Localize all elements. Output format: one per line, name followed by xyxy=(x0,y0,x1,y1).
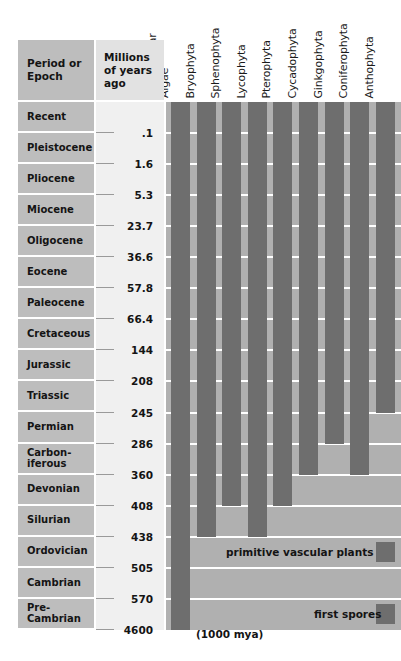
period-cell-1: Recent xyxy=(18,102,94,133)
period-cell-8: Cretaceous xyxy=(18,319,94,350)
boundary-tick-7: 66.4 xyxy=(96,312,164,326)
period-label: Pliocene xyxy=(18,173,75,185)
boundary-tick-rule xyxy=(96,225,114,226)
boundary-value: 144 xyxy=(131,344,164,356)
boundary-tick-rule xyxy=(96,567,114,568)
range-bars-panel: primitive vascular plantsfirst spores(10… xyxy=(166,102,401,630)
period-cell-11: Permian xyxy=(18,413,94,444)
boundary-tick-17: 4600 xyxy=(96,623,164,637)
boundary-value: 1.6 xyxy=(134,158,164,170)
boundary-tick-rule xyxy=(96,163,114,164)
boundary-value: 286 xyxy=(131,438,164,450)
period-cell-17: Pre- Cambrian xyxy=(18,599,94,630)
boundary-tick-rule xyxy=(96,412,114,413)
period-cell-3: Pliocene xyxy=(18,164,94,195)
period-label: Ordovician xyxy=(18,545,88,557)
boundary-value: 36.6 xyxy=(127,251,164,263)
period-label: Triassic xyxy=(18,390,69,402)
range-bar-7 xyxy=(325,102,344,444)
period-label: Eocene xyxy=(18,266,67,278)
mya-column: .11.65.323.736.657.866.41442082452863604… xyxy=(96,102,164,630)
period-label: Permian xyxy=(18,421,74,433)
range-bar-1 xyxy=(171,102,190,630)
column-header-mya: Millions of years ago xyxy=(96,40,164,100)
range-bar-5 xyxy=(273,102,292,506)
boundary-tick-3: 5.3 xyxy=(96,188,164,202)
taxon-header-7: Ginkgophyta xyxy=(312,2,324,98)
boundary-tick-11: 286 xyxy=(96,437,164,451)
boundary-tick-4: 23.7 xyxy=(96,219,164,233)
period-label: Cretaceous xyxy=(18,328,90,340)
annotation-primitive-vascular-plants-swatch xyxy=(376,542,395,562)
period-column: RecentPleistocenePlioceneMioceneOligocen… xyxy=(18,102,94,630)
boundary-value: 23.7 xyxy=(127,220,164,232)
taxon-header-8: Coniferophyta xyxy=(338,2,350,98)
boundary-tick-10: 245 xyxy=(96,406,164,420)
boundary-value: 245 xyxy=(131,407,164,419)
range-bar-9 xyxy=(376,102,395,413)
period-label: Pleistocene xyxy=(18,142,92,154)
period-cell-13: Devonian xyxy=(18,475,94,506)
period-cell-4: Miocene xyxy=(18,195,94,226)
boundary-value: 408 xyxy=(131,500,164,512)
boundary-tick-8: 144 xyxy=(96,343,164,357)
taxa-header-row: Multicellular AlgaeBryophytaSphenophytaL… xyxy=(166,0,401,100)
boundary-tick-rule xyxy=(96,380,114,381)
range-bar-8 xyxy=(350,102,369,475)
period-cell-10: Triassic xyxy=(18,381,94,412)
boundary-value: 4600 xyxy=(124,624,164,636)
boundary-value: 5.3 xyxy=(134,189,164,201)
boundary-tick-rule xyxy=(96,474,114,475)
boundary-tick-12: 360 xyxy=(96,468,164,482)
boundary-tick-5: 36.6 xyxy=(96,250,164,264)
boundary-tick-16: 570 xyxy=(96,592,164,606)
boundary-tick-rule xyxy=(96,536,114,537)
column-header-period: Period or Epoch xyxy=(18,40,94,100)
boundary-tick-9: 208 xyxy=(96,374,164,388)
grid-line-16 xyxy=(166,598,401,600)
period-cell-7: Paleocene xyxy=(18,288,94,319)
period-cell-16: Cambrian xyxy=(18,568,94,599)
period-label: Paleocene xyxy=(18,297,85,309)
boundary-value: 505 xyxy=(131,562,164,574)
range-bar-2 xyxy=(197,102,216,537)
period-label: Carbon- iferous xyxy=(18,447,71,470)
boundary-tick-6: 57.8 xyxy=(96,281,164,295)
range-bar-4 xyxy=(248,102,267,537)
period-cell-15: Ordovician xyxy=(18,537,94,568)
boundary-tick-13: 408 xyxy=(96,499,164,513)
boundary-tick-rule xyxy=(96,629,114,630)
period-label: Jurassic xyxy=(18,359,71,371)
boundary-value: 438 xyxy=(131,531,164,543)
boundary-tick-2: 1.6 xyxy=(96,157,164,171)
boundary-value: 208 xyxy=(131,375,164,387)
boundary-value: 57.8 xyxy=(127,282,164,294)
taxon-header-2: Bryophyta xyxy=(184,2,196,98)
period-label: Recent xyxy=(18,111,66,123)
boundary-tick-15: 505 xyxy=(96,561,164,575)
range-bar-6 xyxy=(299,102,318,475)
period-label: Devonian xyxy=(18,483,80,495)
annotation-primitive-vascular-plants: primitive vascular plants xyxy=(226,546,373,558)
period-cell-12: Carbon- iferous xyxy=(18,444,94,475)
boundary-value: .1 xyxy=(142,127,164,139)
period-label: Miocene xyxy=(18,204,74,216)
boundary-tick-rule xyxy=(96,256,114,257)
annotation-first-spores: first spores xyxy=(314,608,381,620)
period-cell-6: Eocene xyxy=(18,257,94,288)
boundary-tick-rule xyxy=(96,132,114,133)
range-bar-3 xyxy=(222,102,241,506)
grid-line-15 xyxy=(166,567,401,569)
taxon-header-3: Sphenophyta xyxy=(210,2,222,98)
boundary-tick-rule xyxy=(96,318,114,319)
period-cell-9: Jurassic xyxy=(18,350,94,381)
period-label: Cambrian xyxy=(18,577,81,589)
boundary-tick-1: .1 xyxy=(96,126,164,140)
period-cell-5: Oligocene xyxy=(18,226,94,257)
taxon-header-9: Anthophyta xyxy=(363,2,375,98)
period-label: Silurian xyxy=(18,514,70,526)
column-header-mya-label: Millions of years ago xyxy=(96,51,164,90)
taxon-header-6: Cycadophyta xyxy=(287,2,299,98)
taxon-header-4: Lycophyta xyxy=(235,2,247,98)
boundary-tick-rule xyxy=(96,505,114,506)
